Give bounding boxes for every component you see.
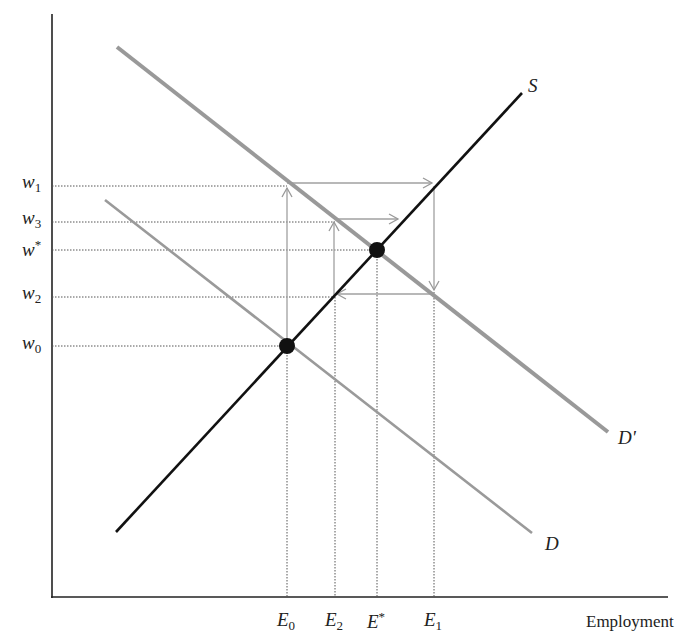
wage-label-w1: w1	[22, 172, 41, 194]
wage-guides	[52, 186, 377, 346]
employment-guides	[287, 250, 434, 597]
wage-label-w0: w0	[22, 333, 41, 355]
demand-prime-curve-label: D'	[618, 428, 636, 447]
x-axis-title: Employment	[586, 612, 674, 632]
employment-label-e2: E2	[325, 610, 343, 632]
labor-market-diagram	[0, 0, 693, 642]
supply-curve-s	[116, 93, 522, 532]
employment-label-estar: E*	[367, 610, 385, 631]
wage-label-wstar: w*	[22, 238, 41, 259]
demand-curve-d	[105, 200, 532, 533]
employment-label-e0: E0	[277, 610, 295, 632]
demand-curve-label: D	[545, 534, 559, 553]
wage-label-w2: w2	[22, 283, 41, 305]
employment-label-e1: E1	[424, 610, 442, 632]
supply-curve-label: S	[528, 76, 538, 95]
wage-label-w3: w3	[22, 208, 41, 230]
initial-equilibrium-point	[279, 338, 295, 354]
demand-curve-d-prime	[117, 47, 608, 432]
final-equilibrium-point	[369, 242, 385, 258]
